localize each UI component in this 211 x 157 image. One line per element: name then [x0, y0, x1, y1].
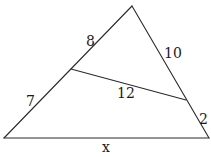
label-base: x — [102, 139, 110, 155]
label-lower-left-side: 7 — [26, 93, 35, 109]
label-inner-segment: 12 — [117, 85, 135, 101]
left-side-edge — [4, 6, 132, 138]
label-upper-left-side: 8 — [86, 33, 95, 49]
triangle-diagram: 8 7 10 2 12 x — [0, 0, 211, 157]
label-lower-right-side: 2 — [199, 111, 208, 127]
right-side-edge — [132, 6, 209, 138]
label-upper-right-side: 10 — [164, 45, 182, 61]
